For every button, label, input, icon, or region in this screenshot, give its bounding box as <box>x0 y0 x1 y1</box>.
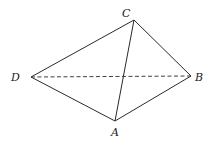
edge-CB <box>134 20 191 76</box>
vertex-label-C: C <box>122 7 131 20</box>
vertex-label-A: A <box>110 126 119 139</box>
edge-CA <box>115 20 134 121</box>
edge-DB-hidden <box>31 76 191 77</box>
tetrahedron-diagram: C D B A <box>0 0 215 146</box>
vertex-label-B: B <box>194 71 203 84</box>
edge-BA <box>115 76 191 121</box>
vertex-label-D: D <box>10 71 20 84</box>
edge-DC <box>31 20 134 77</box>
edge-AD <box>31 77 115 121</box>
